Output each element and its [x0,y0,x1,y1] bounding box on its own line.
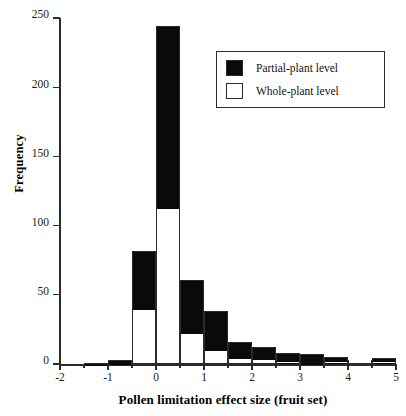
bar-segment-whole-plant [229,359,251,363]
histogram-bar [132,251,156,364]
legend-entry-partial-plant: Partial-plant level [226,59,338,77]
histogram-bar [180,280,204,364]
histogram-bar [108,360,132,364]
x-minor-tick [371,364,372,368]
y-tick-label: 150 [32,148,49,160]
y-tick: 100 [53,225,60,226]
y-axis-line [59,18,61,365]
x-tick-label: 0 [153,372,159,384]
x-tick-label: 1 [201,372,207,384]
bar-segment-whole-plant [181,334,203,363]
y-tick-label: 100 [32,217,49,229]
histogram-bar [276,353,300,364]
y-tick: 250 [53,17,60,18]
x-tick-label: 4 [345,372,351,384]
y-tick: 150 [53,156,60,157]
legend-label-partial-plant: Partial-plant level [256,62,338,74]
histogram-bar [228,342,252,364]
x-tick [59,364,60,370]
legend-swatch-partial-plant [226,60,243,76]
bar-segment-whole-plant [157,209,179,363]
bar-segment-whole-plant [133,310,155,363]
bar-segment-whole-plant [253,360,275,363]
legend: Partial-plant level Whole-plant level [216,51,385,108]
y-axis-title: Frequency [12,109,27,219]
x-tick-label: 5 [393,372,399,384]
histogram-figure: Frequency Pollen limitation effect size … [0,0,406,416]
histogram-bar [372,358,396,364]
x-tick [251,364,252,370]
y-tick-label: 250 [32,9,49,21]
histogram-bar [252,347,276,364]
bar-segment-partial-plant [205,312,227,352]
histogram-bar [156,26,180,364]
x-minor-tick [131,364,132,368]
y-tick: 50 [53,294,60,295]
x-tick [203,364,204,370]
y-tick-label: 0 [43,355,49,367]
x-minor-tick [179,364,180,368]
bar-segment-partial-plant [109,361,131,365]
x-tick-label: 2 [249,372,255,384]
x-tick [347,364,348,370]
bar-segment-partial-plant [181,281,203,336]
y-tick-label: 200 [32,79,49,91]
x-minor-tick [227,364,228,368]
legend-label-whole-plant: Whole-plant level [256,85,339,97]
histogram-bar [300,354,324,364]
histogram-bar [204,311,228,364]
y-tick: 200 [53,87,60,88]
legend-swatch-whole-plant [226,83,243,99]
bar-segment-partial-plant [85,364,107,366]
x-tick [155,364,156,370]
x-tick-label: 3 [297,372,303,384]
bar-segment-whole-plant [277,362,299,363]
histogram-bar [348,360,372,364]
bar-segment-whole-plant [205,351,227,363]
x-tick [395,364,396,370]
x-tick-label: -2 [55,372,65,384]
bar-segment-partial-plant [301,355,323,365]
histogram-bar [324,357,348,364]
bar-segment-partial-plant [133,252,155,313]
histogram-bar [84,363,108,365]
y-tick-label: 50 [38,286,50,298]
bar-segment-whole-plant [349,359,371,363]
x-tick-label: -1 [103,372,113,384]
bar-segment-partial-plant [157,27,179,211]
bar-segment-whole-plant [325,362,347,363]
bar-segment-whole-plant [373,362,395,363]
x-minor-tick [323,364,324,368]
legend-entry-whole-plant: Whole-plant level [226,82,339,100]
x-axis-title: Pollen limitation effect size (fruit set… [40,392,406,408]
x-minor-tick [275,364,276,368]
